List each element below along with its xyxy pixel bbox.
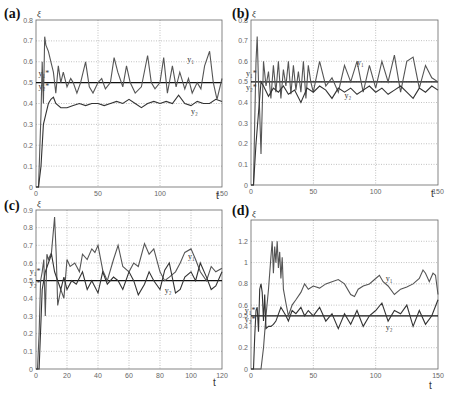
x-tick-label: 80	[156, 372, 164, 379]
x-tick-label: 60	[125, 372, 133, 379]
x-axis-label: t	[213, 377, 216, 388]
x-tick-label: 50	[94, 190, 102, 197]
y-tick-label: 0.1	[23, 348, 33, 355]
y-tick-label: 0	[29, 184, 33, 191]
x-tick-label: 0	[34, 372, 38, 379]
y-tick-label: 0.7	[23, 37, 33, 44]
y-tick-label: 0.9	[23, 207, 33, 214]
x-tick-label: 100	[154, 190, 166, 197]
annotation-y2: y₂	[165, 286, 172, 295]
y-tick-label: 0.8	[23, 17, 33, 24]
annotation-y1s: y₁*	[245, 306, 256, 315]
annotation-y1s: y₁*	[30, 267, 41, 276]
x-tick-label: 50	[309, 372, 317, 379]
x-tick-label: 40	[94, 372, 102, 379]
x-tick-label: 150	[432, 188, 444, 195]
y-tick-label: 0.2	[23, 330, 33, 337]
y-axis-label: ξ	[252, 9, 256, 19]
y-tick-label: 0.4	[23, 100, 33, 107]
y-tick-label: 0.1	[23, 163, 33, 170]
figure: 05010015000.10.20.30.40.50.60.70.8(a)ξty…	[0, 0, 460, 400]
y-tick-label: 0.7	[23, 242, 33, 249]
annotation-y2: y₂	[191, 107, 198, 116]
y-tick-label: 0.3	[23, 121, 33, 128]
y-tick-label: 0.2	[23, 142, 33, 149]
y-tick-label: 1	[244, 259, 248, 266]
x-axis-label: t	[431, 188, 434, 199]
panel-label: (c)	[4, 198, 20, 214]
annotation-y1s: y₁*	[246, 69, 257, 78]
x-tick-label: 100	[370, 372, 382, 379]
panel-label: (b)	[232, 6, 249, 22]
y-tick-label: 0.7	[238, 37, 248, 44]
annotation-y1: y₁	[386, 274, 393, 283]
annotation-y2: y₂	[345, 91, 352, 100]
y-tick-label: 0.8	[23, 224, 33, 231]
y-tick-label: 0	[29, 366, 33, 373]
series-y2	[36, 254, 222, 369]
panel-label: (a)	[4, 6, 21, 22]
x-tick-label: 0	[34, 190, 38, 197]
x-axis-label: t	[216, 190, 219, 201]
annotation-y1: y₁	[188, 252, 195, 261]
annotation-y2s: y₂*	[38, 82, 49, 91]
y-tick-label: 0	[244, 366, 248, 373]
panel-a: 05010015000.10.20.30.40.50.60.70.8(a)ξty…	[4, 6, 228, 201]
series-y1	[251, 37, 438, 186]
y-axis-label: ξ	[252, 209, 256, 219]
annotation-y2s: y₂*	[246, 83, 257, 92]
y-axis-label: ξ	[37, 199, 41, 209]
y-tick-label: 0.2	[238, 140, 248, 147]
annotation-y1: y₁	[187, 55, 194, 64]
y-tick-label: 0.2	[238, 344, 248, 351]
annotation-y1: y₁	[357, 58, 364, 67]
panel-d: 05010015000.20.40.50.60.811.2(d)ξty₁y₂y₁…	[232, 203, 444, 391]
x-tick-label: 100	[185, 372, 197, 379]
y-tick-label: 0.4	[23, 295, 33, 302]
annotation-y2: y₂	[386, 323, 393, 332]
annotation-y2s: y₂*	[245, 315, 256, 324]
x-tick-label: 0	[249, 372, 253, 379]
y-tick-label: 0.3	[238, 120, 248, 127]
x-tick-label: 50	[309, 188, 317, 195]
x-tick-label: 20	[63, 372, 71, 379]
panel-b: 05010015000.10.20.30.40.50.60.70.8(b)ξty…	[232, 6, 444, 199]
x-axis-label: t	[429, 380, 432, 391]
y-tick-label: 0.6	[23, 260, 33, 267]
y-tick-label: 0.6	[238, 58, 248, 65]
panel-label: (d)	[232, 203, 249, 219]
y-tick-label: 0.1	[238, 161, 248, 168]
annotation-y2s: y₂*	[30, 279, 41, 288]
y-tick-label: 1.2	[238, 238, 248, 245]
x-tick-label: 0	[249, 188, 253, 195]
y-tick-label: 0.8	[238, 280, 248, 287]
annotation-y1s: y₁*	[38, 69, 49, 78]
y-tick-label: 0.4	[238, 99, 248, 106]
panel-c: 02040608010012000.10.20.30.40.50.60.70.8…	[4, 198, 228, 388]
x-tick-label: 150	[432, 372, 444, 379]
y-tick-label: 0.5	[23, 79, 33, 86]
x-tick-label: 100	[370, 188, 382, 195]
x-tick-label: 120	[216, 372, 228, 379]
plot-frame	[251, 220, 438, 369]
y-tick-label: 0.3	[23, 313, 33, 320]
y-tick-label: 0.6	[23, 58, 33, 65]
y-tick-label: 0	[244, 182, 248, 189]
y-axis-label: ξ	[37, 9, 41, 19]
